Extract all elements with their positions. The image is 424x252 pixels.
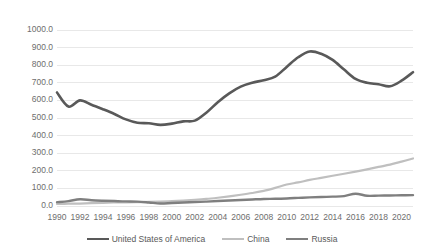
x-tick-label: 1990 bbox=[48, 212, 67, 222]
series-line bbox=[57, 158, 413, 203]
x-tick-label: 2012 bbox=[300, 212, 319, 222]
x-tick-label: 1996 bbox=[116, 212, 135, 222]
x-tick-label: 1998 bbox=[139, 212, 158, 222]
legend-item[interactable]: China bbox=[222, 234, 269, 244]
legend-swatch-icon bbox=[286, 238, 308, 241]
x-tick-label: 2006 bbox=[231, 212, 250, 222]
x-tick-label: 2004 bbox=[208, 212, 227, 222]
legend-item-label: United States of America bbox=[112, 234, 206, 244]
legend-item-label: Russia bbox=[311, 234, 337, 244]
legend-item-label: China bbox=[247, 234, 269, 244]
x-tick-label: 2000 bbox=[162, 212, 181, 222]
legend-item[interactable]: United States of America bbox=[87, 234, 206, 244]
x-axis-tick-labels: 1990199219941996199820002002200420062008… bbox=[0, 210, 424, 224]
x-tick-label: 2010 bbox=[277, 212, 296, 222]
x-tick-label: 2020 bbox=[392, 212, 411, 222]
legend-swatch-icon bbox=[222, 238, 244, 241]
chart-legend: United States of AmericaChinaRussia bbox=[0, 231, 424, 247]
x-tick-label: 2002 bbox=[185, 212, 204, 222]
x-tick-label: 1992 bbox=[70, 212, 89, 222]
line-chart: 0.0100.0200.0300.0400.0500.0600.0700.080… bbox=[0, 0, 424, 252]
x-tick-label: 2008 bbox=[254, 212, 273, 222]
x-tick-label: 2016 bbox=[346, 212, 365, 222]
gridlines bbox=[57, 30, 413, 206]
legend-swatch-icon bbox=[87, 238, 109, 241]
x-tick-label: 1994 bbox=[93, 212, 112, 222]
series-line bbox=[57, 51, 413, 125]
legend-item[interactable]: Russia bbox=[286, 234, 337, 244]
series-lines bbox=[57, 51, 413, 204]
x-tick-label: 2018 bbox=[369, 212, 388, 222]
x-tick-label: 2014 bbox=[323, 212, 342, 222]
